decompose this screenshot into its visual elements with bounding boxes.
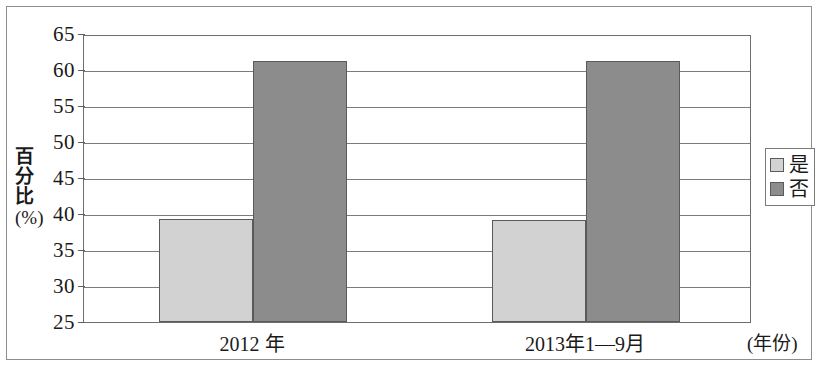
x-axis-category-label-1: 2013年1—9月	[475, 333, 695, 355]
chart-frame: 656055504540353025 百 分 比 (%) 2012 年 2013…	[6, 6, 812, 360]
bar-0-1[interactable]	[253, 61, 347, 322]
y-tick-label-30: 30	[17, 276, 75, 297]
y-tick-mark-45	[78, 178, 85, 179]
y-tick-label-35: 35	[17, 240, 75, 261]
y-tick-mark-40	[78, 214, 85, 215]
y-tick-label-60: 60	[17, 60, 75, 81]
bar-1-0[interactable]	[492, 220, 586, 322]
y-tick-label-65: 65	[17, 24, 75, 45]
legend-swatch-icon-0	[770, 158, 784, 172]
y-tick-mark-35	[78, 250, 85, 251]
y-tick-mark-65	[78, 34, 85, 35]
y-tick-mark-30	[78, 286, 85, 287]
legend-label-1: 否	[789, 179, 809, 199]
legend-label-0: 是	[789, 155, 809, 175]
y-tick-label-25: 25	[17, 312, 75, 333]
y-axis-title-char-1: 分	[15, 167, 61, 187]
y-tick-mark-50	[78, 142, 85, 143]
y-axis-title-unit: (%)	[15, 208, 61, 228]
bar-0-0[interactable]	[159, 219, 253, 322]
legend-item-0[interactable]: 是	[770, 153, 809, 177]
y-axis-title-char-2: 比	[15, 187, 61, 207]
legend: 是 否	[765, 148, 815, 206]
y-tick-label-55: 55	[17, 96, 75, 117]
y-tick-mark-25	[78, 322, 85, 323]
y-tick-mark-60	[78, 70, 85, 71]
plot-area	[83, 35, 751, 323]
x-axis-category-label-0: 2012 年	[142, 333, 362, 355]
x-axis-title: (年份)	[747, 333, 821, 355]
y-axis-title-char-0: 百	[15, 147, 61, 167]
legend-item-1[interactable]: 否	[770, 177, 809, 201]
bar-1-1[interactable]	[586, 61, 680, 322]
legend-swatch-icon-1	[770, 182, 784, 196]
y-axis-title: 百 分 比 (%)	[15, 147, 61, 228]
y-tick-mark-55	[78, 106, 85, 107]
